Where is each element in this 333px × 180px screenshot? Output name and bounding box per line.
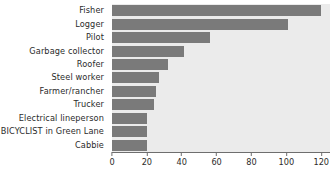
x-axis-tick: 40 bbox=[177, 152, 187, 167]
bar bbox=[112, 46, 184, 57]
bar bbox=[112, 140, 147, 151]
category-label-text: Pilot bbox=[86, 33, 104, 42]
category-label-text: Garbage collector bbox=[29, 47, 104, 56]
x-axis-tick-label: 20 bbox=[142, 158, 152, 167]
bar bbox=[112, 99, 154, 110]
bar-row bbox=[112, 139, 330, 152]
x-axis-tick-label: 120 bbox=[313, 158, 329, 167]
x-axis-ticks: 020406080100120 bbox=[112, 152, 330, 180]
x-axis-tick-mark bbox=[112, 152, 113, 156]
x-axis-tick: 100 bbox=[279, 152, 295, 167]
category-label: Roofer bbox=[0, 58, 108, 71]
bar-row bbox=[112, 17, 330, 30]
bar bbox=[112, 86, 156, 97]
x-axis-tick-mark bbox=[286, 152, 287, 156]
category-label-text: Roofer bbox=[77, 60, 104, 69]
plot-area bbox=[112, 4, 330, 152]
category-label: Steel worker bbox=[0, 71, 108, 84]
category-label-text: BICYCLIST in Green Lane bbox=[1, 127, 104, 136]
bar bbox=[112, 72, 159, 83]
category-label-text: Trucker bbox=[74, 100, 104, 109]
bar-row bbox=[112, 44, 330, 57]
category-label-text: Cabbie bbox=[75, 141, 104, 150]
category-label: Cabbie bbox=[0, 139, 108, 152]
x-axis-tick-mark bbox=[216, 152, 217, 156]
bar-row bbox=[112, 112, 330, 125]
x-axis-tick-mark bbox=[251, 152, 252, 156]
category-label-text: Electrical lineperson bbox=[19, 114, 104, 123]
x-axis-tick-mark bbox=[181, 152, 182, 156]
category-label: Farmer/rancher bbox=[0, 85, 108, 98]
bar-row bbox=[112, 71, 330, 84]
x-axis-tick: 20 bbox=[142, 152, 152, 167]
x-axis-tick: 80 bbox=[246, 152, 256, 167]
category-label: Trucker bbox=[0, 98, 108, 111]
category-label-text: Fisher bbox=[79, 6, 104, 15]
category-label: BICYCLIST in Green Lane bbox=[0, 125, 108, 138]
category-label: Electrical lineperson bbox=[0, 112, 108, 125]
bar-row bbox=[112, 85, 330, 98]
category-label: Fisher bbox=[0, 4, 108, 17]
bar-chart: FisherLoggerPilotGarbage collectorRoofer… bbox=[0, 0, 333, 180]
category-label: Pilot bbox=[0, 31, 108, 44]
x-axis-tick-mark bbox=[146, 152, 147, 156]
x-axis-tick-label: 0 bbox=[109, 158, 114, 167]
bar bbox=[112, 32, 210, 43]
bar bbox=[112, 113, 147, 124]
category-label: Logger bbox=[0, 17, 108, 30]
x-axis-tick-mark bbox=[321, 152, 322, 156]
bar-row bbox=[112, 125, 330, 138]
category-label-text: Farmer/rancher bbox=[40, 87, 104, 96]
x-axis-tick: 120 bbox=[313, 152, 329, 167]
x-axis-tick-label: 40 bbox=[177, 158, 187, 167]
category-label-text: Logger bbox=[75, 20, 104, 29]
x-axis-tick-label: 60 bbox=[211, 158, 221, 167]
bar bbox=[112, 19, 288, 30]
x-axis-tick: 0 bbox=[109, 152, 114, 167]
bar-row bbox=[112, 31, 330, 44]
bars-layer bbox=[112, 4, 330, 152]
x-axis-tick-label: 80 bbox=[246, 158, 256, 167]
x-axis-tick-label: 100 bbox=[279, 158, 295, 167]
bar-row bbox=[112, 4, 330, 17]
bar bbox=[112, 126, 147, 137]
category-label-text: Steel worker bbox=[52, 73, 104, 82]
bar-row bbox=[112, 58, 330, 71]
bar bbox=[112, 59, 168, 70]
category-label: Garbage collector bbox=[0, 44, 108, 57]
category-axis: FisherLoggerPilotGarbage collectorRoofer… bbox=[0, 4, 108, 152]
bar bbox=[112, 5, 321, 16]
x-axis-tick: 60 bbox=[211, 152, 221, 167]
bar-row bbox=[112, 98, 330, 111]
